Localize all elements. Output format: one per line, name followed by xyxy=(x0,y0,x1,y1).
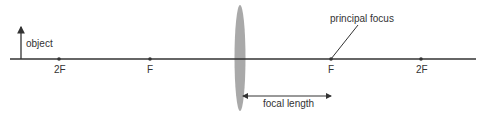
label-left-f: F xyxy=(147,64,153,75)
point-left-f xyxy=(148,57,152,61)
principal-focus-label: principal focus xyxy=(330,13,394,24)
point-left-2f xyxy=(57,57,61,61)
point-right-2f xyxy=(419,57,423,61)
label-right-2f: 2F xyxy=(416,64,428,75)
label-right-f: F xyxy=(328,64,334,75)
label-left-2f: 2F xyxy=(54,64,66,75)
diagram-svg: object 2F F F 2F principal focus focal l… xyxy=(0,0,484,117)
principal-focus-pointer xyxy=(331,25,358,59)
object-label: object xyxy=(26,38,53,49)
lens-diagram: object 2F F F 2F principal focus focal l… xyxy=(0,0,484,117)
focal-length-label: focal length xyxy=(263,98,314,109)
converging-lens xyxy=(235,5,246,111)
